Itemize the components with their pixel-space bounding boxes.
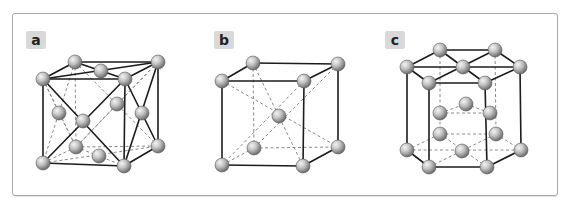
atom [110,97,124,111]
atom [297,74,311,88]
atom [151,55,165,69]
atom [422,160,436,174]
atom [36,72,50,86]
atom [151,139,165,153]
atom [135,106,149,120]
atom [400,143,414,157]
atom [455,144,469,158]
hcp-unit-cell [400,43,528,174]
atom [488,43,502,57]
atom [433,43,447,57]
atom [513,60,527,74]
atom [36,156,50,170]
atom [246,56,260,70]
atom [52,106,66,120]
bcc-unit-cell [215,56,345,173]
atom [400,60,414,74]
atom [331,140,345,154]
atom [68,55,82,69]
atom [247,141,261,155]
atom [215,74,229,88]
atom [118,72,132,86]
atom [272,109,286,123]
fcc-unit-cell [36,55,165,173]
atom [331,57,345,71]
atom [456,60,470,74]
atom [483,106,497,120]
atom [215,158,229,172]
atom [76,114,90,128]
atom [459,97,473,111]
atom [433,106,447,120]
atom [433,127,447,141]
atom [69,140,83,154]
atom [117,159,131,173]
crystal-lattice-diagram [0,0,572,208]
atom [514,143,528,157]
atom [94,64,108,78]
atom [92,149,106,163]
atom [422,76,436,90]
atom [296,159,310,173]
atom [480,160,494,174]
atom [489,127,503,141]
atom [478,76,492,90]
